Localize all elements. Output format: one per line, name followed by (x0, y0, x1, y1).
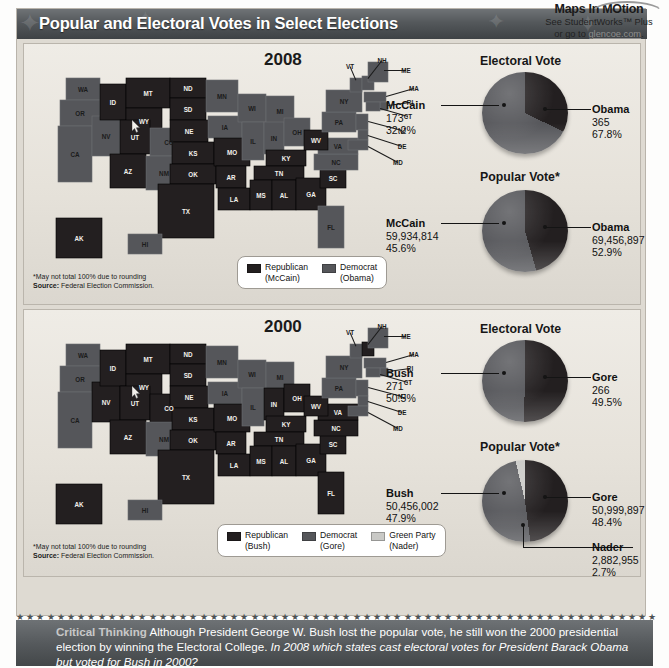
state-sd[interactable] (170, 364, 206, 386)
callout-percent: 50.5% (386, 392, 478, 405)
state-ct[interactable] (366, 102, 380, 111)
state-ca[interactable] (58, 126, 92, 182)
state-al[interactable] (272, 446, 296, 476)
legend-swatch (322, 264, 336, 273)
map-legend-2008: Republican(McCain)Democrat(Obama) (237, 256, 387, 289)
state-az[interactable] (110, 420, 146, 454)
state-id[interactable] (100, 84, 126, 120)
state-wv[interactable] (304, 130, 328, 150)
state-de[interactable] (358, 130, 368, 140)
figure-title: Popular and Electoral Votes in Select El… (39, 14, 398, 33)
goto-text: or go to (554, 29, 588, 39)
state-ok[interactable] (170, 164, 216, 184)
state-la[interactable] (218, 454, 250, 476)
state-wv[interactable] (304, 396, 328, 416)
critical-thinking-bar: Critical Thinking Although President Geo… (16, 620, 653, 666)
state-sd[interactable] (170, 98, 206, 120)
pie-chart[interactable] (482, 340, 568, 426)
state-nd[interactable] (170, 344, 206, 364)
state-nv[interactable] (92, 382, 120, 422)
state-nd[interactable] (170, 78, 206, 98)
state-wi[interactable] (238, 94, 266, 122)
state-nj[interactable] (356, 114, 368, 130)
state-pa[interactable] (322, 112, 356, 132)
election-map-2000[interactable]: WAORCANVIDMTWYUTCOAZNMNDSDNEKSOKTXMNIAMO… (32, 324, 418, 556)
legend-party: Republican (265, 262, 308, 273)
state-fl[interactable] (318, 206, 344, 248)
legend-item: Democrat(Obama) (322, 262, 377, 283)
pie-chart[interactable] (482, 460, 568, 546)
state-ks[interactable] (172, 142, 214, 164)
legend-label: Democrat(Gore) (320, 530, 357, 551)
state-ne[interactable] (170, 386, 208, 408)
state-ky[interactable] (266, 150, 306, 166)
footnote-rounding: *May not total 100% due to rounding (33, 272, 154, 281)
state-ia[interactable] (208, 382, 242, 404)
pie-callout: Bush27150.5% (386, 367, 478, 405)
state-mn[interactable] (206, 80, 238, 112)
state-md[interactable] (348, 140, 368, 150)
callout-candidate: Nader (592, 541, 639, 554)
state-ne[interactable] (170, 120, 208, 142)
state-ny[interactable] (326, 356, 362, 378)
state-ms[interactable] (250, 446, 272, 476)
state-hi[interactable] (128, 500, 162, 520)
callout-percent: 32.2% (386, 124, 478, 137)
state-ma[interactable] (364, 92, 386, 102)
glencoe-link[interactable]: glencoe.com (588, 29, 641, 39)
state-tx[interactable] (158, 450, 214, 504)
state-wi[interactable] (238, 360, 266, 388)
state-nv[interactable] (92, 116, 120, 156)
state-pa[interactable] (322, 378, 356, 398)
state-fl[interactable] (318, 472, 344, 514)
state-nj[interactable] (356, 380, 368, 396)
state-in[interactable] (264, 388, 284, 420)
callout-candidate: Gore (592, 371, 622, 384)
state-ia[interactable] (208, 116, 242, 138)
state-ca[interactable] (58, 392, 92, 448)
state-ok[interactable] (170, 430, 216, 450)
state-tx[interactable] (158, 184, 214, 238)
state-id[interactable] (100, 350, 126, 386)
state-de[interactable] (358, 396, 368, 406)
state-sc[interactable] (320, 168, 346, 188)
state-ks[interactable] (172, 408, 214, 430)
state-ms[interactable] (250, 180, 272, 210)
state-ct[interactable] (366, 368, 380, 377)
pie-chart[interactable] (482, 190, 568, 276)
callout-dot (502, 103, 506, 107)
pie-callout: McCain17332.2% (386, 99, 478, 137)
state-wa[interactable] (66, 78, 100, 100)
pie-chart[interactable] (482, 72, 568, 158)
state-ar[interactable] (216, 432, 246, 454)
state-md[interactable] (348, 406, 368, 416)
callout-candidate: Bush (386, 487, 478, 500)
callout-candidate: Bush (386, 367, 478, 380)
pie-body (482, 190, 568, 272)
state-in[interactable] (264, 122, 284, 154)
state-ak[interactable] (56, 218, 102, 258)
state-al[interactable] (272, 180, 296, 210)
state-nc[interactable] (314, 154, 358, 170)
state-il[interactable] (242, 122, 264, 160)
state-az[interactable] (110, 154, 146, 188)
state-ma[interactable] (364, 358, 386, 368)
state-il[interactable] (242, 388, 264, 426)
state-nc[interactable] (314, 420, 358, 436)
state-sc[interactable] (320, 434, 346, 454)
state-mt[interactable] (126, 344, 170, 374)
callout-percent: 47.9% (386, 512, 478, 525)
star-icon: ✦ (19, 10, 41, 36)
state-la[interactable] (218, 188, 250, 210)
state-mt[interactable] (126, 78, 170, 108)
state-mn[interactable] (206, 346, 238, 378)
state-ny[interactable] (326, 90, 362, 112)
star-icon: ✦ (487, 9, 505, 35)
state-ak[interactable] (56, 484, 102, 524)
state-wa[interactable] (66, 344, 100, 366)
state-ky[interactable] (266, 416, 306, 432)
state-ar[interactable] (216, 166, 246, 188)
legend-swatch (371, 532, 385, 541)
legend-label: Republican(Bush) (245, 530, 288, 551)
state-hi[interactable] (128, 234, 162, 254)
